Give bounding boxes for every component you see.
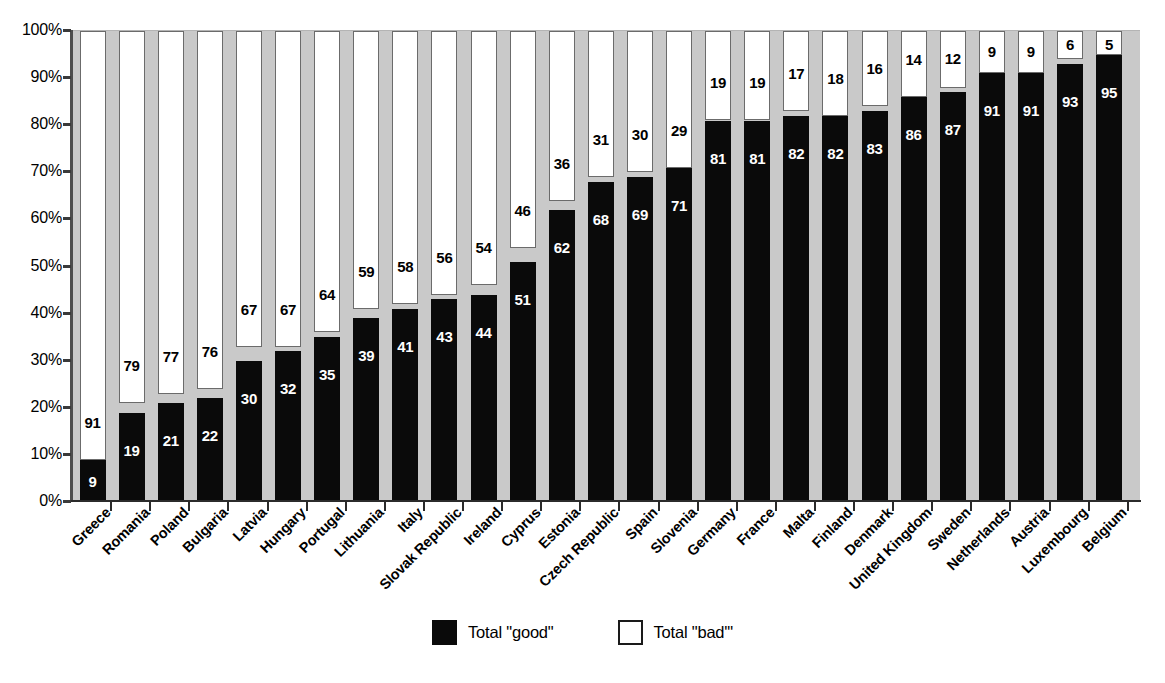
bar-column[interactable]: 7919: [119, 31, 145, 502]
bar-column[interactable]: 6730: [236, 31, 262, 502]
bar-column[interactable]: 6732: [275, 31, 301, 502]
bar-value-label-bad: 58: [392, 259, 418, 274]
bar-segment-good[interactable]: [940, 92, 966, 502]
bar-column[interactable]: 919: [80, 31, 106, 502]
x-axis-category-label: France: [734, 505, 777, 548]
bar-column[interactable]: 7721: [158, 31, 184, 502]
y-axis-tick-mark: [63, 453, 71, 456]
stacked-bar-chart: 100%90%80%70%60%50%40%30%20%10%0% 919791…: [0, 0, 1165, 683]
bar-segment-good[interactable]: [275, 351, 301, 502]
bar-segment-bad[interactable]: [627, 31, 653, 172]
bar-segment-good[interactable]: [158, 403, 184, 502]
bar-value-label-good: 51: [510, 292, 536, 307]
legend-entry[interactable]: Total "good": [432, 620, 553, 645]
bar-value-label-bad: 67: [275, 302, 301, 317]
bar-column[interactable]: 5841: [392, 31, 418, 502]
bar-segment-good[interactable]: [1018, 73, 1044, 502]
bar-value-label-good: 91: [979, 103, 1005, 118]
bar-value-label-bad: 31: [588, 132, 614, 147]
x-axis-tick-mark: [462, 502, 464, 511]
bar-segment-good[interactable]: [197, 398, 223, 502]
bar-value-label-bad: 30: [627, 127, 653, 142]
bar-value-label-good: 32: [275, 381, 301, 396]
bar-segment-good[interactable]: [783, 116, 809, 502]
y-axis-tick-label: 100%: [0, 22, 62, 38]
bar-column[interactable]: 595: [1096, 31, 1122, 502]
bar-value-label-bad: 12: [940, 51, 966, 66]
bar-column[interactable]: 693: [1057, 31, 1083, 502]
bar-value-label-bad: 36: [549, 156, 575, 171]
x-axis-tick-mark: [540, 502, 542, 511]
bar-segment-bad[interactable]: [666, 31, 692, 168]
bar-segment-bad[interactable]: [197, 31, 223, 389]
x-axis-tick-mark: [227, 502, 229, 511]
bar-segment-bad[interactable]: [80, 31, 106, 460]
bar-value-label-good: 62: [549, 240, 575, 255]
y-axis-tick-mark: [63, 406, 71, 409]
bar-segment-bad[interactable]: [549, 31, 575, 201]
bar-value-label-bad: 17: [783, 66, 809, 81]
bar-value-label-bad: 67: [236, 302, 262, 317]
bar-segment-good[interactable]: [862, 111, 888, 502]
bar-column[interactable]: 1486: [901, 31, 927, 502]
bar-segment-good[interactable]: [979, 73, 1005, 502]
legend-swatch-good-icon: [432, 620, 457, 645]
bar-value-label-bad: 79: [119, 358, 145, 373]
bar-value-label-bad: 56: [431, 250, 457, 265]
x-axis-tick-mark: [775, 502, 777, 511]
bar-column[interactable]: 1683: [862, 31, 888, 502]
x-axis-tick-mark: [1127, 502, 1129, 511]
bar-segment-good[interactable]: [353, 318, 379, 502]
bar-value-label-bad: 29: [666, 123, 692, 138]
y-axis-tick-mark: [63, 500, 71, 503]
bar-segment-good[interactable]: [236, 361, 262, 502]
bar-segment-good[interactable]: [822, 116, 848, 502]
bar-segment-good[interactable]: [744, 121, 770, 503]
bar-value-label-good: 93: [1057, 94, 1083, 109]
bar-column[interactable]: 991: [1018, 31, 1044, 502]
bar-column[interactable]: 1981: [744, 31, 770, 502]
y-axis-tick-mark: [63, 170, 71, 173]
bar-segment-good[interactable]: [666, 168, 692, 502]
bar-column[interactable]: 5939: [353, 31, 379, 502]
bar-value-label-bad: 5: [1096, 37, 1122, 52]
y-axis-tick-label: 30%: [0, 352, 62, 368]
bar-column[interactable]: 3662: [549, 31, 575, 502]
y-axis-tick-mark: [63, 359, 71, 362]
x-axis-tick-mark: [1088, 502, 1090, 511]
bar-segment-good[interactable]: [901, 97, 927, 502]
bar-column[interactable]: 1981: [705, 31, 731, 502]
bar-column[interactable]: 1287: [940, 31, 966, 502]
bar-segment-good[interactable]: [588, 182, 614, 502]
x-axis-label-group: GreeceRomaniaPolandBulgariaLatviaHungary…: [0, 505, 1165, 610]
bar-column[interactable]: 3168: [588, 31, 614, 502]
x-axis-tick-mark: [110, 502, 112, 511]
bar-segment-bad[interactable]: [588, 31, 614, 177]
bar-value-label-good: 82: [822, 146, 848, 161]
bar-segment-good[interactable]: [1096, 55, 1122, 502]
bar-column[interactable]: 7622: [197, 31, 223, 502]
bar-segment-good[interactable]: [705, 121, 731, 503]
bar-value-label-bad: 59: [353, 264, 379, 279]
bar-value-label-bad: 19: [705, 75, 731, 90]
bar-segment-bad[interactable]: [275, 31, 301, 347]
bar-column[interactable]: 2971: [666, 31, 692, 502]
bar-column[interactable]: 5643: [431, 31, 457, 502]
x-axis-tick-mark: [384, 502, 386, 511]
bar-column[interactable]: 1882: [822, 31, 848, 502]
bar-segment-good[interactable]: [314, 337, 340, 502]
bar-segment-bad[interactable]: [236, 31, 262, 347]
x-axis-tick-mark: [423, 502, 425, 511]
bar-column[interactable]: 1782: [783, 31, 809, 502]
bar-value-label-good: 41: [392, 339, 418, 354]
bar-column[interactable]: 4651: [510, 31, 536, 502]
bar-segment-bad[interactable]: [119, 31, 145, 403]
bar-segment-bad[interactable]: [158, 31, 184, 394]
bar-segment-good[interactable]: [627, 177, 653, 502]
legend-entry[interactable]: Total "bad'": [618, 620, 733, 645]
bar-column[interactable]: 5444: [471, 31, 497, 502]
bar-column[interactable]: 6435: [314, 31, 340, 502]
bar-column[interactable]: 991: [979, 31, 1005, 502]
bar-segment-good[interactable]: [1057, 64, 1083, 502]
bar-column[interactable]: 3069: [627, 31, 653, 502]
